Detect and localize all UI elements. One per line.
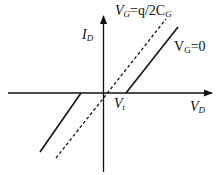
vgq-label-mid: =q/2C bbox=[130, 3, 165, 18]
iv-diagram bbox=[0, 0, 216, 175]
curve-vg0-lower bbox=[40, 93, 81, 152]
vg0-label-main: V bbox=[174, 39, 184, 54]
vg0-label-rest: =0 bbox=[191, 39, 206, 54]
vgq-label-sub2: G bbox=[165, 9, 172, 19]
vgq-label-main: V bbox=[115, 3, 124, 18]
curve-vgq-dashed bbox=[56, 19, 166, 158]
x-axis-label: VD bbox=[190, 100, 205, 115]
vt-label-sub: t bbox=[123, 102, 126, 112]
y-axis-label: ID bbox=[82, 28, 93, 43]
x-label-sub: D bbox=[199, 105, 206, 115]
y-label-sub: D bbox=[87, 33, 94, 43]
vt-label-main: V bbox=[114, 96, 123, 111]
threshold-label: Vt bbox=[114, 97, 125, 112]
curve-label-vgq: VG=q/2CG bbox=[115, 4, 172, 19]
x-label-main: V bbox=[190, 99, 199, 114]
curve-label-vg0: VG=0 bbox=[174, 40, 206, 55]
